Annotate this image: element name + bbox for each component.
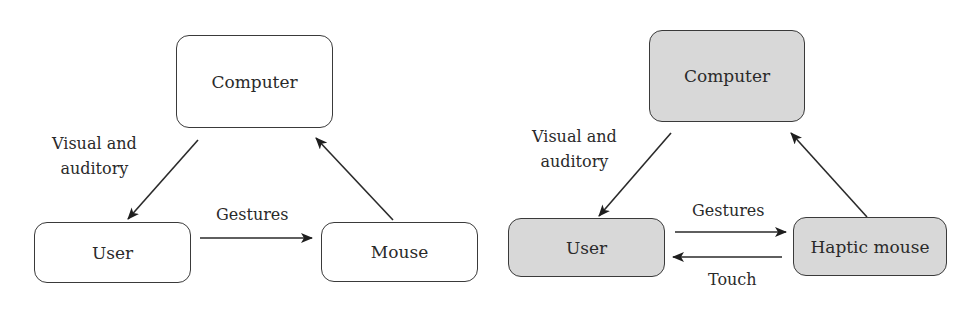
edge-label-line: auditory: [52, 156, 137, 181]
node-label: User: [566, 238, 607, 258]
edge-label-visual-auditory-right: Visual and auditory: [532, 124, 617, 174]
edge-label-line: auditory: [532, 149, 617, 174]
node-haptic-mouse-right: Haptic mouse: [793, 217, 947, 276]
arrow-computer-to-user-left: [128, 140, 198, 219]
node-computer-left: Computer: [176, 35, 333, 128]
edge-label-gestures-right: Gestures: [692, 198, 765, 223]
edge-label-touch-right: Touch: [708, 267, 757, 292]
edge-label-line: Visual and: [532, 124, 617, 149]
node-mouse-left: Mouse: [321, 222, 478, 282]
node-label: Computer: [684, 66, 770, 86]
node-label: Computer: [211, 72, 297, 92]
node-computer-right: Computer: [649, 30, 805, 122]
edge-label-visual-auditory-left: Visual and auditory: [52, 131, 137, 181]
node-label: Haptic mouse: [810, 237, 929, 257]
node-user-right: User: [508, 218, 665, 277]
node-user-left: User: [34, 222, 191, 283]
node-label: Mouse: [371, 242, 428, 262]
arrow-haptic-mouse-to-computer-right: [791, 133, 867, 217]
arrow-mouse-to-computer-left: [316, 138, 393, 220]
node-label: User: [92, 243, 133, 263]
edge-label-gestures-left: Gestures: [216, 202, 289, 227]
edge-label-line: Visual and: [52, 131, 137, 156]
